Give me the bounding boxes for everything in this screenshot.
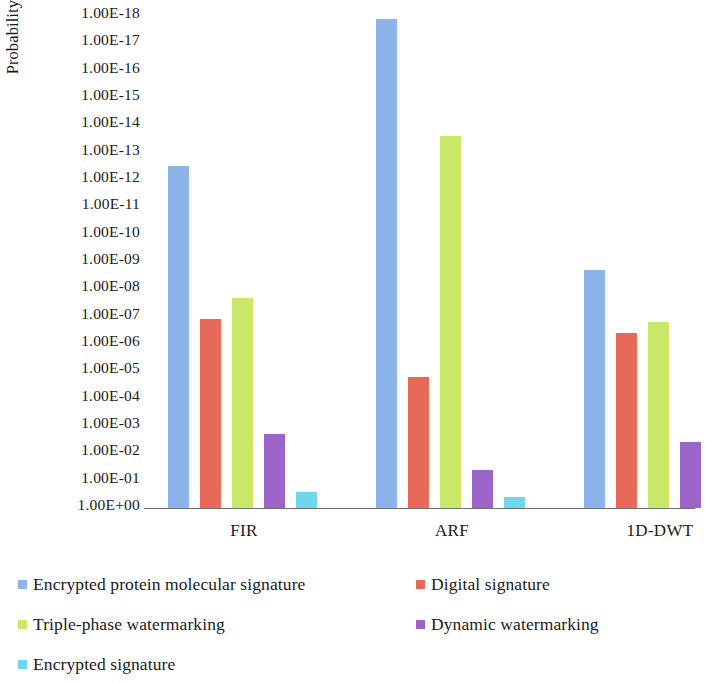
bar-arf-series-0 (376, 19, 397, 508)
chart-legend: Encrypted protein molecular signatureDig… (18, 572, 678, 680)
legend-swatch-icon (416, 580, 425, 589)
bar-1d-dwt-series-3 (680, 442, 701, 508)
bar-1d-dwt-series-1 (616, 333, 637, 508)
y-axis-tick-labels: 1.00E-181.00E-171.00E-161.00E-151.00E-14… (36, 0, 140, 520)
bar-fir-series-4 (296, 492, 317, 508)
legend-item-0[interactable]: Encrypted protein molecular signature (18, 572, 305, 596)
x-axis-label-fir: FIR (174, 519, 314, 543)
bar-arf-series-1 (408, 377, 429, 508)
legend-item-1[interactable]: Digital signature (416, 572, 550, 596)
x-axis-category-labels: FIRARF1D-DWT (0, 519, 695, 549)
bar-fir-series-3 (264, 434, 285, 508)
y-axis-title: Probability of coincidence (0, 0, 26, 166)
legend-label: Triple-phase watermarking (33, 612, 225, 636)
y-axis-tick: 1.00E-11 (36, 195, 140, 213)
y-axis-tick: 1.00E-02 (36, 441, 140, 459)
legend-label: Encrypted protein molecular signature (33, 572, 305, 596)
legend-swatch-icon (416, 620, 425, 629)
bar-arf-series-3 (472, 470, 493, 508)
legend-swatch-icon (18, 660, 27, 669)
legend-label: Digital signature (431, 572, 550, 596)
bar-fir-series-1 (200, 319, 221, 508)
legend-item-2[interactable]: Triple-phase watermarking (18, 612, 225, 636)
legend-item-4[interactable]: Encrypted signature (18, 652, 175, 676)
legend-item-3[interactable]: Dynamic watermarking (416, 612, 599, 636)
x-axis-label-arf: ARF (382, 519, 522, 543)
legend-label: Encrypted signature (33, 652, 175, 676)
y-axis-tick: 1.00E-18 (36, 4, 140, 22)
y-axis-tick: 1.00E-07 (36, 305, 140, 323)
y-axis-tick: 1.00E-08 (36, 277, 140, 295)
y-axis-tick: 1.00E-12 (36, 168, 140, 186)
y-axis-tick: 1.00E-15 (36, 86, 140, 104)
y-axis-tick: 1.00E-17 (36, 31, 140, 49)
y-axis-tick: 1.00E-05 (36, 359, 140, 377)
y-axis-tick: 1.00E+00 (36, 496, 140, 514)
x-axis-line (144, 508, 695, 509)
y-axis-tick: 1.00E-10 (36, 223, 140, 241)
legend-swatch-icon (18, 580, 27, 589)
plot-area (144, 4, 695, 509)
bar-1d-dwt-series-0 (584, 270, 605, 508)
bar-arf-series-2 (440, 136, 461, 508)
bar-arf-series-4 (504, 497, 525, 508)
y-axis-tick: 1.00E-04 (36, 387, 140, 405)
y-axis-tick: 1.00E-13 (36, 141, 140, 159)
y-axis-tick: 1.00E-14 (36, 113, 140, 131)
y-axis-tick: 1.00E-03 (36, 414, 140, 432)
bar-fir-series-2 (232, 298, 253, 508)
legend-swatch-icon (18, 620, 27, 629)
y-axis-tick: 1.00E-09 (36, 250, 140, 268)
y-axis-tick: 1.00E-01 (36, 469, 140, 487)
x-axis-label-1d-dwt: 1D-DWT (590, 519, 705, 543)
bar-1d-dwt-series-2 (648, 322, 669, 508)
legend-label: Dynamic watermarking (431, 612, 599, 636)
y-axis-tick: 1.00E-16 (36, 59, 140, 77)
y-axis-tick: 1.00E-06 (36, 332, 140, 350)
bar-fir-series-0 (168, 166, 189, 508)
